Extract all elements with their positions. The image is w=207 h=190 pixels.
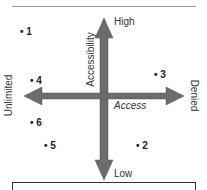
point-3: • 3 [154,69,166,80]
point-2: • 2 [136,140,148,151]
label-low: Low [114,168,132,179]
point-5: • 5 [44,140,56,151]
bottom-box [12,182,196,190]
label-high: High [114,16,135,27]
point-1: • 1 [20,26,32,37]
point-4: • 4 [30,75,42,86]
label-accessibility: Accessibility [85,30,96,90]
label-access: Access [114,100,146,111]
label-denied: Denied [189,76,200,116]
point-6: • 6 [30,117,42,128]
label-unlimited: Unlimited [3,72,14,120]
